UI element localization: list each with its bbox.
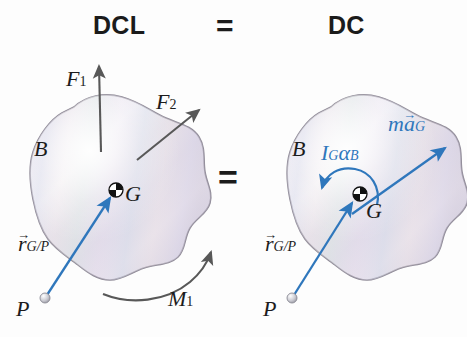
point-p-label-left: P bbox=[16, 298, 29, 320]
force-f1-label: F1 bbox=[66, 68, 86, 90]
inertia-force-accel-wrap: →a bbox=[404, 113, 415, 135]
center-of-mass-symbol-left bbox=[109, 183, 123, 197]
title-dc: DC bbox=[328, 13, 365, 38]
inertia-couple-alpha-sub: B bbox=[350, 148, 359, 163]
inertia-force-accel-sub: G bbox=[415, 119, 425, 134]
position-vector-label-right: →rG/P bbox=[265, 233, 296, 255]
vector-arrow-accent-icon: → bbox=[264, 228, 273, 241]
force-f2-base: F bbox=[156, 89, 169, 114]
point-p-label-right: P bbox=[263, 298, 276, 320]
force-f2-label: F2 bbox=[156, 91, 176, 113]
vector-arrow-accent-icon: → bbox=[17, 228, 26, 241]
force-f2-sub: 2 bbox=[169, 97, 176, 112]
position-vector-label-left: →rG/P bbox=[18, 233, 49, 255]
equals-middle: = bbox=[218, 160, 238, 194]
inertia-couple-I-sub: G bbox=[328, 148, 338, 163]
moment-m1-label: M1 bbox=[168, 288, 193, 310]
center-of-mass-symbol-right bbox=[353, 187, 367, 201]
moment-m1-sub: 1 bbox=[186, 294, 193, 309]
inertia-couple-label: IGαB bbox=[321, 142, 359, 164]
position-vector-right-base-wrap: →r bbox=[265, 233, 274, 255]
cg-label-right: G bbox=[366, 200, 382, 222]
point-p-marker-right bbox=[287, 293, 297, 303]
equals-top: = bbox=[216, 11, 234, 41]
cg-label-left: G bbox=[125, 183, 141, 205]
position-vector-left-base-wrap: →r bbox=[18, 233, 27, 255]
inertia-couple-alpha: α bbox=[338, 140, 350, 165]
inertia-force-mass: m bbox=[388, 111, 404, 136]
moment-m1-base: M bbox=[168, 286, 186, 311]
point-p-marker-left bbox=[40, 293, 50, 303]
dynamics-figure: DCL = DC = F1 F2 B G →rG/P P M1 B IGαB m… bbox=[0, 0, 467, 337]
force-f1-sub: 1 bbox=[79, 74, 86, 89]
force-f1-base: F bbox=[66, 66, 79, 91]
vector-arrow-accent-icon: → bbox=[403, 108, 414, 121]
title-dcl: DCL bbox=[93, 13, 145, 38]
body-label-left: B bbox=[34, 138, 47, 160]
body-label-right: B bbox=[292, 138, 305, 160]
inertia-force-label: m→aG bbox=[388, 113, 425, 135]
